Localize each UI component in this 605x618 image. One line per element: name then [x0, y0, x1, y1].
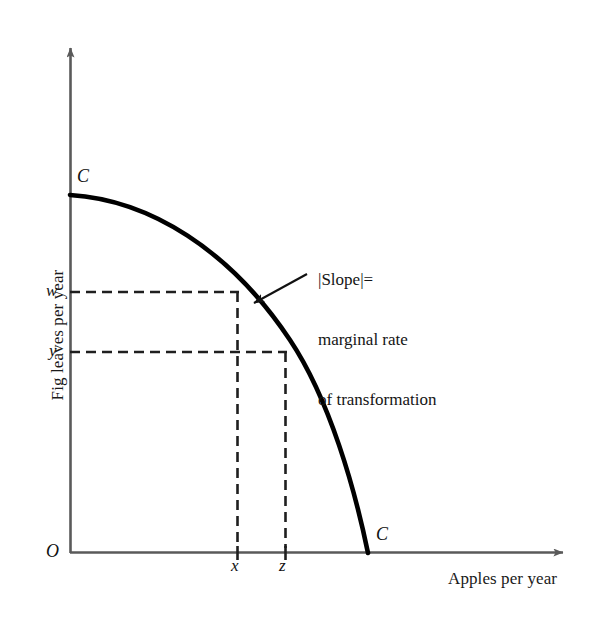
y-axis-title-text: Fig leaves per year [48, 240, 68, 430]
origin-label: O [46, 541, 59, 562]
curve-label-top: C [77, 166, 89, 187]
slope-annotation: |Slope|= marginal rate of transformation [318, 230, 437, 451]
y-axis-title: Fig leaves per year [10, 240, 106, 430]
x-tick-label-x: x [231, 556, 239, 576]
y-tick-label-y: y [49, 341, 57, 361]
slope-annotation-line3: of transformation [318, 390, 437, 410]
slope-annotation-line1: |Slope|= [318, 270, 437, 290]
annotation-arrow [254, 274, 307, 303]
slope-annotation-line2: marginal rate [318, 330, 437, 350]
y-tick-label-w: w [46, 281, 57, 301]
ppf-figure: Fig leaves per year Apples per year O w … [0, 0, 605, 618]
x-tick-label-z: z [279, 556, 286, 576]
curve-label-bottom: C [376, 524, 388, 545]
x-axis-title: Apples per year [448, 569, 557, 589]
